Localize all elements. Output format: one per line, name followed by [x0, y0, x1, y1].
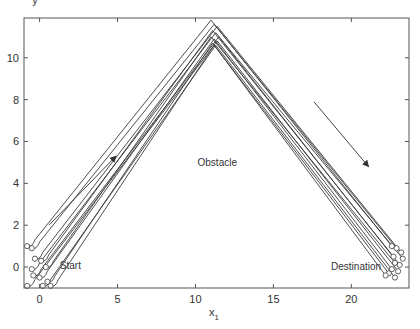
y-tick-label: 4: [13, 177, 19, 189]
destination-point-marker: [394, 246, 399, 251]
x-tick-label: 0: [37, 293, 43, 305]
start-point-marker: [29, 246, 34, 251]
top-text-fragment: y: [32, 0, 38, 6]
destination-point-marker: [397, 262, 402, 267]
trajectory-line: [32, 24, 397, 248]
trajectory-line: [32, 33, 403, 270]
destination-point-marker: [391, 254, 396, 259]
x-tick-label: 10: [189, 293, 201, 305]
start-point-marker: [39, 258, 44, 263]
annotation-start: Start: [60, 260, 81, 271]
x-axis-label-subscript: 1: [215, 313, 220, 322]
start-point-marker: [43, 264, 48, 269]
y-tick-label: 6: [13, 135, 19, 147]
destination-point-marker: [400, 256, 405, 261]
x-tick-label: 15: [267, 293, 279, 305]
trajectory-line: [46, 37, 395, 268]
x-tick-label: 20: [345, 293, 357, 305]
y-tick-label: 10: [7, 52, 19, 64]
start-point-marker: [31, 273, 36, 278]
y-tick-label: 8: [13, 94, 19, 106]
trajectory-lines: [27, 20, 403, 286]
annotation-destination: Destination: [331, 261, 381, 272]
x-axis-label: x1: [209, 306, 220, 322]
destination-point-marker: [392, 275, 397, 280]
destination-point-marker: [383, 273, 388, 278]
y-tick-label: 2: [13, 219, 19, 231]
destination-point-marker: [399, 250, 404, 255]
start-point-marker: [37, 275, 42, 280]
trajectory-chart: y 05101520 0246810 x1 StartObstacleDesti…: [0, 0, 420, 329]
x-tick-label: 5: [114, 293, 120, 305]
start-point-marker: [29, 267, 34, 272]
y-tick-label: 0: [13, 261, 19, 273]
plot-area-frame: [24, 18, 409, 288]
annotation-obstacle: Obstacle: [198, 157, 238, 168]
destination-point-marker: [395, 269, 400, 274]
start-point-marker: [32, 256, 37, 261]
